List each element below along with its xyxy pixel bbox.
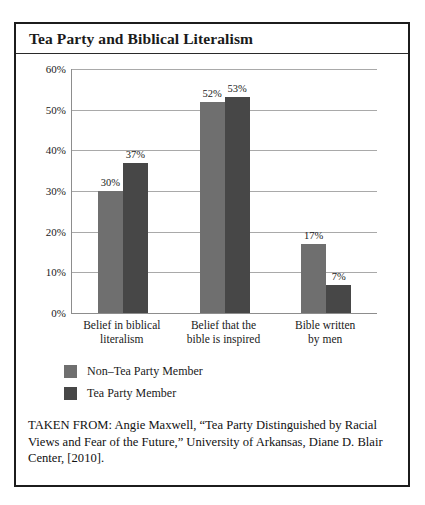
legend-item: Tea Party Member xyxy=(64,384,364,403)
source-caption: TAKEN FROM: Angie Maxwell, “Tea Party Di… xyxy=(28,417,400,467)
bar-value-label: 17% xyxy=(295,230,332,241)
page-title: Tea Party and Biblical Literalism xyxy=(29,30,253,48)
legend-item: Non–Tea Party Member xyxy=(64,362,364,381)
bar xyxy=(200,102,225,313)
legend-swatch-icon xyxy=(64,365,77,378)
y-tick-label: 60% xyxy=(18,64,66,75)
bar xyxy=(98,191,123,313)
y-tick-label: 30% xyxy=(18,186,66,197)
gridline xyxy=(72,69,377,70)
chart-legend: Non–Tea Party MemberTea Party Member xyxy=(64,362,364,406)
bar-chart: 60%50%40%30%20%10%0% 30%37%52%53%17%7% B… xyxy=(16,54,408,344)
bar-value-label: 53% xyxy=(219,83,256,94)
y-tick-label: 50% xyxy=(18,105,66,116)
bar-value-label: 37% xyxy=(117,149,154,160)
legend-label: Non–Tea Party Member xyxy=(87,365,203,378)
y-tick-label: 40% xyxy=(18,145,66,156)
y-axis: 60%50%40%30%20%10%0% xyxy=(16,69,66,313)
bar xyxy=(123,163,148,313)
bar xyxy=(326,285,351,313)
x-tick-label: Bible writtenby men xyxy=(256,318,394,346)
figure-frame: Tea Party and Biblical Literalism 60%50%… xyxy=(14,22,410,487)
y-tick-label: 10% xyxy=(18,267,66,278)
y-tick-label: 20% xyxy=(18,227,66,238)
legend-label: Tea Party Member xyxy=(87,387,176,400)
bar xyxy=(225,97,250,313)
legend-swatch-icon xyxy=(64,387,77,400)
bar-value-label: 7% xyxy=(320,271,357,282)
plot-area: 30%37%52%53%17%7% xyxy=(71,69,377,314)
x-tick-label-line: Bible written xyxy=(256,318,394,332)
x-tick-label-line: by men xyxy=(256,332,394,346)
x-axis: Belief in biblicalliteralismBelief that … xyxy=(71,318,376,358)
